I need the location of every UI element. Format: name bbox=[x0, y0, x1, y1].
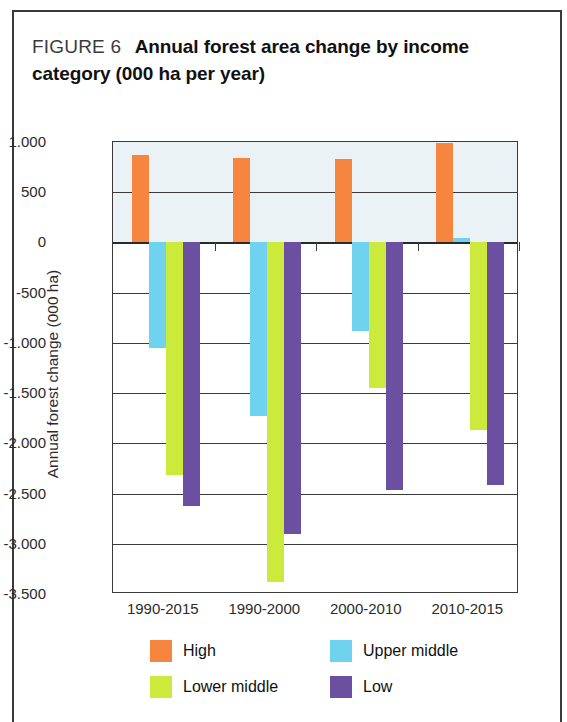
bar bbox=[453, 238, 470, 242]
gridline bbox=[113, 192, 517, 193]
bar bbox=[284, 242, 301, 533]
y-axis-tick-label: -2.000 bbox=[0, 434, 46, 451]
legend-label: High bbox=[183, 642, 216, 660]
legend-item-upper-middle: Upper middle bbox=[330, 640, 510, 662]
bar bbox=[386, 242, 403, 489]
legend-item-lower-middle: Lower middle bbox=[150, 676, 330, 698]
x-axis-tick-label: 2010-2015 bbox=[407, 600, 527, 617]
y-axis-tick-label: -3.500 bbox=[0, 585, 46, 602]
legend-item-low: Low bbox=[330, 676, 510, 698]
bar bbox=[470, 242, 487, 430]
y-axis-tick-label: -1.500 bbox=[0, 384, 46, 401]
bar bbox=[436, 143, 453, 243]
legend-swatch-icon bbox=[330, 640, 352, 662]
legend-row: HighUpper middle bbox=[150, 633, 510, 669]
category-tick bbox=[519, 242, 520, 251]
legend-label: Low bbox=[363, 678, 392, 696]
category-tick bbox=[316, 242, 317, 251]
y-axis-tick-label: -2.500 bbox=[0, 484, 46, 501]
category-tick bbox=[215, 242, 216, 251]
bar bbox=[166, 242, 183, 475]
y-axis-tick-label: 500 bbox=[0, 183, 46, 200]
bar bbox=[233, 158, 250, 243]
bar bbox=[352, 242, 369, 330]
legend-swatch-icon bbox=[330, 676, 352, 698]
plot-area bbox=[112, 141, 518, 593]
y-axis-title: Annual forest change (000 ha) bbox=[44, 209, 62, 539]
gridline bbox=[113, 494, 517, 495]
y-axis-tick-label: 1.000 bbox=[0, 133, 46, 150]
bar bbox=[369, 242, 386, 388]
legend-label: Lower middle bbox=[183, 678, 278, 696]
y-axis-tick-label: -1.000 bbox=[0, 333, 46, 350]
bar bbox=[250, 242, 267, 416]
legend-item-high: High bbox=[150, 640, 330, 662]
legend-swatch-icon bbox=[150, 676, 172, 698]
legend-label: Upper middle bbox=[363, 642, 458, 660]
chart-legend: HighUpper middleLower middleLow bbox=[150, 633, 510, 705]
bar bbox=[267, 242, 284, 582]
bar bbox=[335, 159, 352, 243]
y-axis-tick-label: -500 bbox=[0, 283, 46, 300]
legend-row: Lower middleLow bbox=[150, 669, 510, 705]
y-axis-tick-label: 0 bbox=[0, 233, 46, 250]
bar bbox=[132, 155, 149, 242]
y-axis-tick-label: -3.000 bbox=[0, 534, 46, 551]
bar bbox=[149, 242, 166, 347]
bar bbox=[487, 242, 504, 484]
category-tick bbox=[418, 242, 419, 251]
legend-swatch-icon bbox=[150, 640, 172, 662]
bar bbox=[183, 242, 200, 505]
gridline bbox=[113, 544, 517, 545]
